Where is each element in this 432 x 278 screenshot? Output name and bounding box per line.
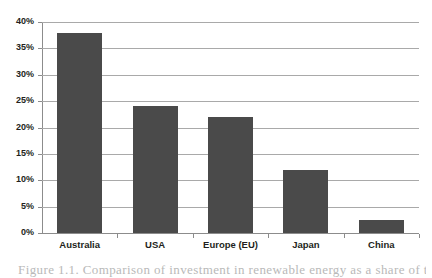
x-axis-tick-1 (193, 234, 194, 238)
y-axis-label-30: 30% (0, 70, 34, 79)
plot-area (42, 22, 419, 233)
x-axis-label-australia: Australia (42, 240, 117, 250)
x-axis-label-usa: USA (117, 240, 192, 250)
bar-chart: 0%5%10%15%20%25%30%35%40% AustraliaUSAEu… (0, 0, 432, 252)
y-axis-label-15: 15% (0, 149, 34, 158)
x-axis-label-china: China (344, 240, 419, 250)
x-axis-label-europe-eu: Europe (EU) (193, 240, 268, 250)
x-axis-tick-end (419, 234, 420, 238)
bar-europe-eu[interactable] (208, 117, 253, 233)
x-axis-tick-2 (268, 234, 269, 238)
bar-usa[interactable] (133, 106, 178, 233)
x-axis-tick-0 (117, 234, 118, 238)
y-axis-label-10: 10% (0, 175, 34, 184)
x-axis-label-japan: Japan (268, 240, 343, 250)
y-axis-label-20: 20% (0, 123, 34, 132)
gridline-40 (42, 22, 419, 23)
x-axis-tick-3 (344, 234, 345, 238)
y-axis-label-0: 0% (0, 228, 34, 237)
bar-japan[interactable] (283, 170, 328, 233)
figure-caption: Figure 1.1. Comparison of investment in … (18, 262, 426, 278)
y-axis-label-5: 5% (0, 202, 34, 211)
y-axis-label-25: 25% (0, 96, 34, 105)
bar-china[interactable] (359, 220, 404, 233)
y-axis-label-35: 35% (0, 43, 34, 52)
bar-australia[interactable] (57, 33, 102, 233)
gridline-0 (42, 233, 419, 234)
y-axis-label-40: 40% (0, 17, 34, 26)
